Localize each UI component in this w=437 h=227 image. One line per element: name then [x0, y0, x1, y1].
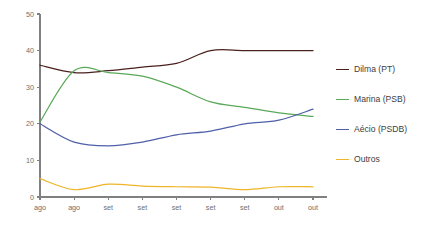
plot-area: 01020304050 agoagosetsetsetsetsetoutout	[0, 0, 330, 227]
series-line-outros	[40, 179, 313, 190]
x-tick-label: set	[206, 203, 216, 212]
y-tick-label: 0	[30, 193, 34, 202]
legend-item-label: Aécio (PSDB)	[354, 125, 407, 134]
legend-item[interactable]: Marina (PSB)	[336, 84, 437, 114]
legend-item-label: Outros	[354, 155, 380, 164]
y-tick-label: 10	[26, 156, 34, 165]
plot-svg: 01020304050 agoagosetsetsetsetsetoutout	[0, 0, 330, 227]
legend-item-label: Dilma (PT)	[354, 65, 395, 74]
x-tick-label: out	[308, 203, 318, 212]
x-axis	[40, 197, 327, 200]
x-tick-label: set	[240, 203, 250, 212]
y-tick-label: 30	[26, 83, 34, 92]
y-tick-label: 20	[26, 119, 34, 128]
legend-item[interactable]: Outros	[336, 144, 437, 174]
series-lines	[40, 50, 313, 190]
legend-swatch-aecio	[336, 129, 349, 130]
series-line-dilma-pt	[40, 50, 313, 73]
legend-swatch-dilma	[336, 69, 349, 70]
x-tick-label: ago	[34, 203, 46, 212]
x-tick-label: set	[172, 203, 182, 212]
series-line-a-cio-psdb	[40, 109, 313, 146]
x-tick-labels: agoagosetsetsetsetsetoutout	[34, 203, 318, 212]
x-tick-label: out	[274, 203, 284, 212]
line-chart: 01020304050 agoagosetsetsetsetsetoutout …	[0, 0, 437, 227]
legend-item[interactable]: Dilma (PT)	[336, 54, 437, 84]
chart-legend: Dilma (PT)Marina (PSB)Aécio (PSDB)Outros	[336, 54, 437, 174]
legend-swatch-outros	[336, 159, 349, 160]
legend-item[interactable]: Aécio (PSDB)	[336, 114, 437, 144]
y-tick-labels: 01020304050	[26, 10, 34, 202]
y-axis	[37, 14, 40, 197]
y-tick-label: 40	[26, 46, 34, 55]
x-tick-label: set	[138, 203, 148, 212]
x-tick-label: ago	[68, 203, 80, 212]
legend-item-label: Marina (PSB)	[354, 95, 406, 104]
series-line-marina-psb	[40, 67, 313, 122]
legend-swatch-marina	[336, 99, 349, 100]
x-tick-label: set	[103, 203, 113, 212]
y-tick-label: 50	[26, 10, 34, 19]
